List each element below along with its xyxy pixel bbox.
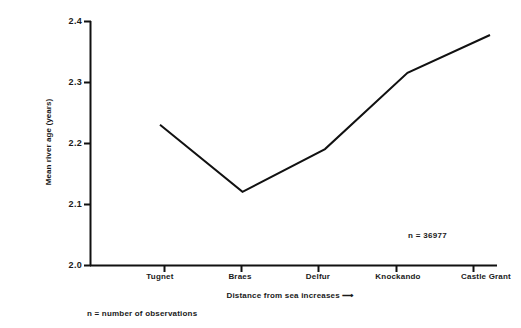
x-axis-tick-labels: Tugnet Braes Delfur Knockando Castle Gra… — [90, 271, 510, 285]
x-tick-label: Knockando — [352, 271, 444, 283]
x-tick-label: Tugnet — [120, 271, 200, 283]
x-tick-label: Delfur — [280, 271, 356, 283]
x-tick-label: Braes — [202, 271, 278, 283]
data-series-line — [160, 35, 490, 192]
x-tick-label: Castle Grant — [438, 271, 521, 283]
footnote: n = number of observations — [87, 309, 197, 318]
sample-size-annotation: n = 36977 — [408, 231, 447, 240]
x-axis-label: Distance from sea increases ⟶ — [90, 291, 490, 300]
chart-figure: Mean river age (years) 2.4 2.3 2.2 2.1 2… — [0, 0, 521, 328]
